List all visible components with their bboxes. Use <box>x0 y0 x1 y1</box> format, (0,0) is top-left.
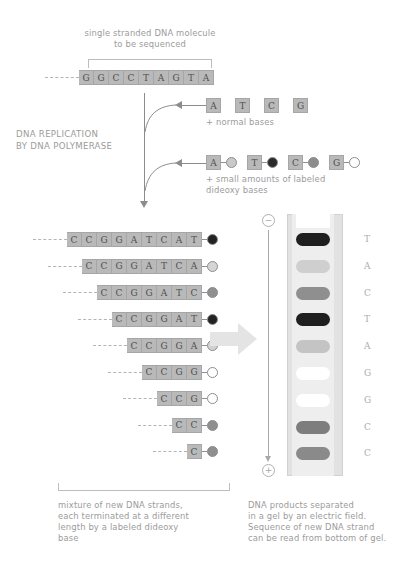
left-caption: mixture of new DNA strands, each termina… <box>58 500 240 544</box>
new-strand-base: C <box>112 312 127 327</box>
diagram-canvas: single stranded DNA molecule to be seque… <box>0 0 398 566</box>
new-strand-base: C <box>127 312 142 327</box>
migration-axis <box>268 230 269 458</box>
normal-bases-row: A T C G <box>206 98 308 113</box>
gel-band-letter: G <box>364 395 371 405</box>
new-strand-base: C <box>187 444 202 459</box>
new-strand-row: CCGGATCAT <box>33 232 218 247</box>
feed-arrow-normal <box>142 98 202 134</box>
new-strand-base: G <box>97 232 112 247</box>
new-strand-base: G <box>172 365 187 380</box>
feed-head-dideoxy <box>175 159 182 167</box>
strand-leader <box>108 372 142 373</box>
template-base: A <box>199 70 214 85</box>
new-strand-base: C <box>142 338 157 353</box>
gel-band <box>296 313 330 326</box>
terminator-label-dot <box>207 367 218 378</box>
strand-leader <box>138 425 172 426</box>
dideoxy-base-letter: G <box>329 155 344 170</box>
new-strand-base: C <box>187 285 202 300</box>
new-strand-row: C <box>153 444 218 459</box>
terminator-label-dot <box>207 287 218 298</box>
terminator-label-dot <box>207 446 218 457</box>
dideoxy-label-dot <box>349 157 360 168</box>
gel-band-letter: T <box>364 234 370 244</box>
template-strand: G G C C T A G T A <box>45 70 214 85</box>
gel-band <box>296 421 330 434</box>
new-strand-base: A <box>172 312 187 327</box>
dideoxy-label-dot <box>226 157 237 168</box>
new-strand-base: A <box>172 232 187 247</box>
normal-bases-caption: + normal bases <box>206 117 366 128</box>
new-strand-base: A <box>127 232 142 247</box>
new-strand-base: G <box>142 312 157 327</box>
new-strand-base: T <box>187 232 202 247</box>
new-strand-base: G <box>187 365 202 380</box>
template-base: C <box>109 70 124 85</box>
template-base: T <box>139 70 154 85</box>
strand-leader <box>153 451 187 452</box>
feed-arrow-dideoxy <box>142 155 202 193</box>
new-strand-base: A <box>187 338 202 353</box>
new-strand-base: G <box>127 285 142 300</box>
new-strand-row: CCGG <box>108 365 218 380</box>
template-base: G <box>79 70 94 85</box>
template-base: C <box>124 70 139 85</box>
gel-band-letter: G <box>364 368 371 378</box>
terminator-label-dot <box>207 234 218 245</box>
new-strand-base: C <box>172 418 187 433</box>
new-strand-row: CC <box>138 418 218 433</box>
strand-leader <box>33 239 67 240</box>
new-strand-row: CCGGAT <box>78 312 218 327</box>
normal-base: G <box>293 98 308 113</box>
new-strand-base: T <box>142 232 157 247</box>
new-strand-base: T <box>172 285 187 300</box>
strand-leader <box>63 292 97 293</box>
new-strand-base: A <box>157 285 172 300</box>
electrode-positive: + <box>262 464 275 477</box>
new-strand-base: C <box>187 418 202 433</box>
template-bracket <box>88 59 212 68</box>
feed-head-normal <box>175 101 182 109</box>
process-label: DNA REPLICATION BY DNA POLYMERASE <box>16 128 142 152</box>
dideoxy-base-letter: C <box>288 155 303 170</box>
gel-band-letter: A <box>364 261 371 271</box>
dideoxy-base-item: A <box>206 155 237 170</box>
new-strand-row: CCGGA <box>93 338 218 353</box>
terminator-label-dot <box>207 261 218 272</box>
new-strand-base: C <box>82 259 97 274</box>
gel-band-letter: A <box>364 341 371 351</box>
normal-base: A <box>206 98 221 113</box>
new-strand-row: CCGGATC <box>63 285 218 300</box>
dideoxy-label-dot <box>308 157 319 168</box>
dideoxy-base-item: C <box>288 155 319 170</box>
new-strand-base: C <box>67 232 82 247</box>
strand-leader <box>93 345 127 346</box>
new-strand-base: T <box>157 259 172 274</box>
new-strand-base: C <box>157 365 172 380</box>
dideoxy-bases-row: A T C G <box>206 155 360 170</box>
strand-leader <box>78 319 112 320</box>
gel-band <box>296 287 330 300</box>
transfer-arrow-icon <box>210 322 258 356</box>
dideoxy-base-letter: A <box>206 155 221 170</box>
strand-leader <box>48 266 82 267</box>
gel-band <box>296 447 330 460</box>
gel-band <box>296 340 330 353</box>
new-strand-base: C <box>82 232 97 247</box>
new-strand-base: G <box>187 391 202 406</box>
new-strand-base: C <box>142 365 157 380</box>
new-strand-row: CCG <box>123 391 218 406</box>
terminator-label-dot <box>207 393 218 404</box>
template-base: T <box>184 70 199 85</box>
gel-band-letter: C <box>364 288 371 298</box>
new-strand-base: A <box>142 259 157 274</box>
strands-bracket <box>58 483 230 491</box>
new-strand-base: C <box>97 285 112 300</box>
electrode-negative: − <box>262 214 275 227</box>
new-strand-base: C <box>172 259 187 274</box>
strand-leader <box>123 398 157 399</box>
right-caption: DNA products separated in a gel by an el… <box>248 500 398 544</box>
gel-well <box>296 214 330 228</box>
top-label: single stranded DNA molecule to be seque… <box>66 28 234 50</box>
